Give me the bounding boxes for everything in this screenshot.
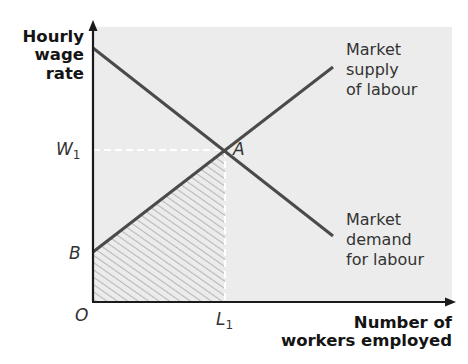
supply-label-line3: of labour xyxy=(346,80,417,100)
x-axis-title-line2: workers employed xyxy=(281,332,452,350)
supply-label-line1: Market xyxy=(346,40,417,60)
supply-curve-label: Market supply of labour xyxy=(346,40,417,100)
point-b-text: B xyxy=(69,243,81,263)
origin-label: O xyxy=(75,306,88,325)
y-axis-arrow-icon xyxy=(89,20,98,31)
point-a-label: A xyxy=(233,140,245,159)
y-axis-title-line3: rate xyxy=(23,65,84,83)
y-axis-title-line1: Hourly xyxy=(23,28,84,46)
x-axis-title: Number of workers employed xyxy=(281,314,452,351)
w1-label: W1 xyxy=(56,140,80,163)
origin-text: O xyxy=(75,305,88,325)
y-axis-title-line2: wage xyxy=(23,46,84,64)
supply-label-line2: supply xyxy=(346,60,417,80)
l1-label: L1 xyxy=(216,310,233,333)
point-a-text: A xyxy=(233,139,245,159)
demand-curve-label: Market demand for labour xyxy=(346,210,424,270)
x-axis-title-line1: Number of xyxy=(281,314,452,332)
y-axis-title: Hourly wage rate xyxy=(23,28,84,83)
w1-main: W xyxy=(56,139,73,159)
demand-label-line2: demand xyxy=(346,230,424,250)
demand-label-line1: Market xyxy=(346,210,424,230)
w1-sub: 1 xyxy=(73,148,81,162)
demand-label-line3: for labour xyxy=(346,250,424,270)
point-b-label: B xyxy=(69,244,81,263)
l1-sub: 1 xyxy=(225,318,233,332)
